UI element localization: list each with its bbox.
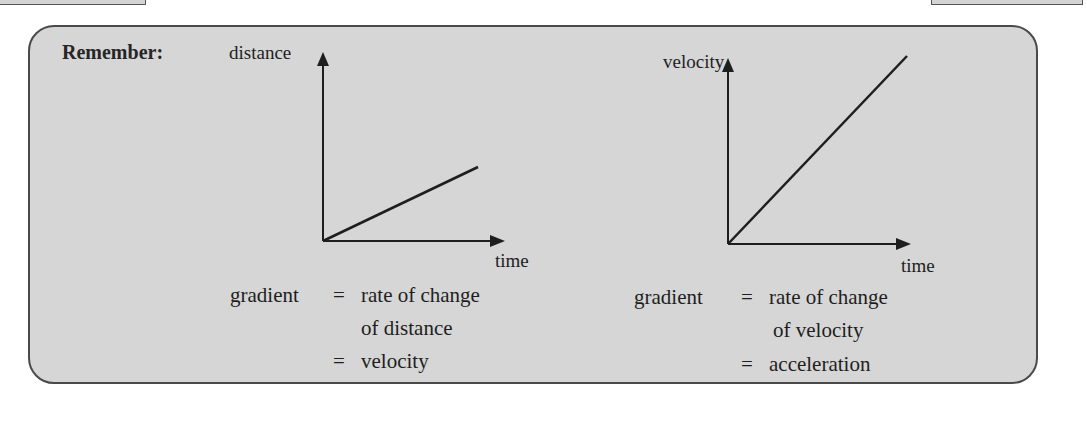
graph2-gradient-label: gradient [634, 287, 703, 308]
graph2-line2: of velocity [773, 320, 863, 341]
graph2-line1: rate of change [769, 287, 888, 308]
graph2-equals-1: = [741, 287, 753, 308]
graph2-velocity-time [0, 0, 1087, 423]
graph2-x-label: time [901, 256, 935, 275]
graph2-equals-2: = [741, 354, 753, 375]
graph2-x-arrow-icon [896, 238, 911, 250]
graph2-y-arrow-icon [722, 58, 734, 72]
graph2-result: acceleration [769, 354, 870, 375]
graph2-data-line [728, 56, 907, 244]
